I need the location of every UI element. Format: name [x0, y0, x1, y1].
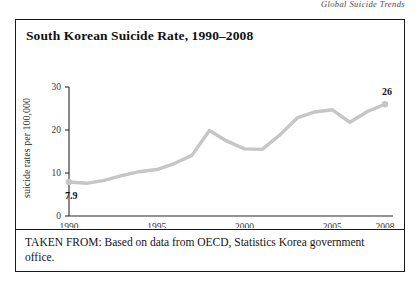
data-marker-1990: [66, 179, 72, 185]
y-tick-label-10: 10: [52, 168, 62, 178]
last-point-label: 26: [382, 86, 392, 97]
running-header: Global Suicide Trends: [0, 0, 405, 7]
data-marker-2008: [382, 101, 388, 107]
figure-source-note: TAKEN FROM: Based on data from OECD, Sta…: [25, 235, 395, 265]
x-tick-label-2008: 2008: [376, 222, 395, 228]
x-axis-tick-labels: 19901995200020052008: [60, 222, 395, 228]
data-line-series: [69, 104, 385, 183]
figure-divider: [16, 229, 404, 230]
figure-box: South Korean Suicide Rate, 1990–2008 010…: [15, 19, 405, 272]
line-chart-svg: 0102030 19901995200020052008 suicide rat…: [16, 50, 404, 228]
chart-plot-area: 0102030 19901995200020052008 suicide rat…: [16, 50, 404, 228]
y-axis-title: suicide rates per 100,000: [21, 98, 32, 198]
y-tick-label-30: 30: [52, 82, 62, 92]
x-tick-label-2005: 2005: [323, 222, 342, 228]
x-tick-label-1990: 1990: [60, 222, 79, 228]
first-point-label: 7.9: [65, 190, 78, 201]
y-axis-tick-labels: 0102030: [52, 82, 62, 221]
figure-title: South Korean Suicide Rate, 1990–2008: [26, 28, 253, 44]
x-tick-label-1995: 1995: [147, 222, 166, 228]
x-tick-label-2000: 2000: [235, 222, 254, 228]
y-tick-label-0: 0: [56, 211, 61, 221]
y-tick-label-20: 20: [52, 125, 62, 135]
